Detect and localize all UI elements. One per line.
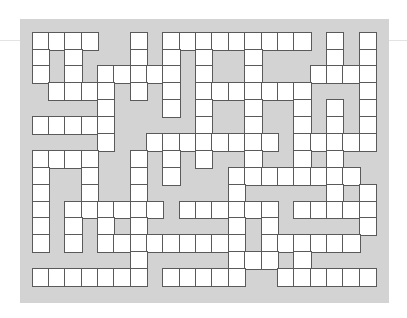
grid-cell-white[interactable] — [212, 235, 228, 252]
grid-cell-white[interactable] — [245, 66, 261, 83]
grid-cell-white[interactable] — [229, 83, 245, 100]
grid-cell-white[interactable] — [196, 117, 212, 134]
grid-cell-white[interactable] — [196, 100, 212, 117]
grid-cell-white[interactable] — [180, 202, 196, 219]
grid-cell-white[interactable] — [180, 269, 196, 286]
grid-cell-white[interactable] — [82, 83, 98, 100]
grid-cell-white[interactable] — [33, 151, 49, 168]
grid-cell-white[interactable] — [229, 269, 245, 286]
grid-cell-white[interactable] — [360, 117, 376, 134]
grid-cell-white[interactable] — [33, 33, 49, 50]
grid-cell-white[interactable] — [131, 168, 147, 185]
grid-cell-white[interactable] — [131, 202, 147, 219]
grid-cell-white[interactable] — [131, 83, 147, 100]
grid-cell-white[interactable] — [212, 202, 228, 219]
grid-cell-white[interactable] — [294, 100, 310, 117]
grid-cell-white[interactable] — [163, 33, 179, 50]
grid-cell-white[interactable] — [343, 202, 359, 219]
grid-cell-white[interactable] — [229, 134, 245, 151]
grid-cell-white[interactable] — [327, 100, 343, 117]
grid-cell-white[interactable] — [360, 269, 376, 286]
grid-cell-white[interactable] — [163, 50, 179, 67]
grid-cell-white[interactable] — [212, 83, 228, 100]
grid-cell-white[interactable] — [327, 185, 343, 202]
grid-cell-white[interactable] — [180, 134, 196, 151]
grid-cell-white[interactable] — [33, 168, 49, 185]
grid-cell-white[interactable] — [360, 33, 376, 50]
grid-cell-white[interactable] — [327, 269, 343, 286]
grid-cell-white[interactable] — [262, 202, 278, 219]
grid-cell-white[interactable] — [360, 66, 376, 83]
grid-cell-white[interactable] — [131, 252, 147, 269]
grid-cell-white[interactable] — [278, 83, 294, 100]
grid-cell-white[interactable] — [245, 134, 261, 151]
grid-cell-white[interactable] — [212, 33, 228, 50]
grid-cell-white[interactable] — [327, 117, 343, 134]
grid-cell-white[interactable] — [147, 202, 163, 219]
grid-cell-white[interactable] — [229, 185, 245, 202]
grid-cell-white[interactable] — [65, 83, 81, 100]
grid-cell-white[interactable] — [262, 134, 278, 151]
grid-cell-white[interactable] — [131, 218, 147, 235]
grid-cell-white[interactable] — [33, 185, 49, 202]
grid-cell-white[interactable] — [278, 235, 294, 252]
grid-cell-white[interactable] — [294, 33, 310, 50]
grid-cell-white[interactable] — [311, 134, 327, 151]
grid-cell-white[interactable] — [343, 235, 359, 252]
grid-cell-white[interactable] — [294, 151, 310, 168]
grid-cell-white[interactable] — [147, 134, 163, 151]
grid-cell-white[interactable] — [245, 83, 261, 100]
grid-cell-white[interactable] — [262, 33, 278, 50]
grid-cell-white[interactable] — [163, 134, 179, 151]
grid-cell-white[interactable] — [131, 151, 147, 168]
grid-cell-white[interactable] — [65, 235, 81, 252]
grid-cell-white[interactable] — [311, 202, 327, 219]
grid-cell-white[interactable] — [327, 151, 343, 168]
grid-cell-white[interactable] — [229, 33, 245, 50]
grid-cell-white[interactable] — [98, 66, 114, 83]
grid-cell-white[interactable] — [360, 134, 376, 151]
grid-cell-white[interactable] — [196, 151, 212, 168]
grid-cell-white[interactable] — [229, 202, 245, 219]
grid-cell-white[interactable] — [196, 33, 212, 50]
grid-cell-white[interactable] — [196, 269, 212, 286]
grid-cell-white[interactable] — [114, 202, 130, 219]
grid-cell-white[interactable] — [82, 202, 98, 219]
grid-cell-white[interactable] — [294, 269, 310, 286]
grid-cell-white[interactable] — [294, 134, 310, 151]
grid-cell-white[interactable] — [327, 66, 343, 83]
grid-cell-white[interactable] — [49, 83, 65, 100]
grid-cell-white[interactable] — [180, 33, 196, 50]
grid-cell-white[interactable] — [163, 269, 179, 286]
grid-cell-white[interactable] — [82, 269, 98, 286]
grid-cell-white[interactable] — [33, 218, 49, 235]
grid-cell-white[interactable] — [327, 202, 343, 219]
grid-cell-white[interactable] — [98, 134, 114, 151]
grid-cell-white[interactable] — [360, 83, 376, 100]
grid-cell-white[interactable] — [311, 66, 327, 83]
grid-cell-white[interactable] — [294, 117, 310, 134]
grid-cell-white[interactable] — [33, 235, 49, 252]
grid-cell-white[interactable] — [311, 168, 327, 185]
grid-cell-white[interactable] — [98, 117, 114, 134]
grid-cell-white[interactable] — [245, 117, 261, 134]
grid-cell-white[interactable] — [196, 83, 212, 100]
grid-cell-white[interactable] — [245, 151, 261, 168]
grid-cell-white[interactable] — [229, 168, 245, 185]
grid-cell-white[interactable] — [82, 117, 98, 134]
grid-cell-white[interactable] — [180, 235, 196, 252]
grid-cell-white[interactable] — [294, 202, 310, 219]
grid-cell-white[interactable] — [163, 100, 179, 117]
grid-cell-white[interactable] — [33, 50, 49, 67]
grid-cell-white[interactable] — [294, 83, 310, 100]
grid-cell-white[interactable] — [114, 235, 130, 252]
grid-cell-white[interactable] — [131, 269, 147, 286]
grid-cell-white[interactable] — [245, 50, 261, 67]
grid-cell-white[interactable] — [229, 218, 245, 235]
grid-cell-white[interactable] — [33, 117, 49, 134]
grid-cell-white[interactable] — [245, 252, 261, 269]
grid-cell-white[interactable] — [196, 50, 212, 67]
grid-cell-white[interactable] — [98, 202, 114, 219]
grid-cell-white[interactable] — [327, 134, 343, 151]
grid-cell-white[interactable] — [278, 168, 294, 185]
